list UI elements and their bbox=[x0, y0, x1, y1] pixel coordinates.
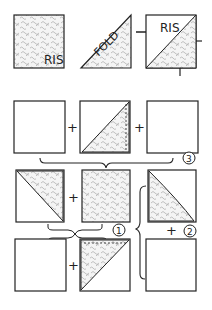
step-1-badge: 1 bbox=[113, 224, 125, 236]
plain-square bbox=[147, 101, 198, 153]
plus-sign: + bbox=[134, 120, 145, 135]
plain-square bbox=[146, 239, 196, 291]
plus-sign: + bbox=[68, 258, 79, 273]
quilt-block-diagram: RIS FOLD RIS + + 3 + 1 bbox=[0, 0, 212, 310]
plus-sign: + bbox=[68, 190, 79, 205]
svg-text:1: 1 bbox=[116, 226, 122, 236]
curved-block bbox=[148, 170, 196, 222]
plain-square bbox=[14, 101, 65, 153]
step-3-badge: 3 bbox=[183, 152, 195, 164]
hst-block bbox=[80, 239, 130, 291]
step-2-badge: 2 bbox=[184, 225, 196, 237]
plain-square bbox=[15, 239, 66, 291]
hst-block bbox=[80, 101, 130, 153]
brace-step-1 bbox=[48, 224, 102, 234]
ris-label: RIS bbox=[44, 53, 64, 67]
brace-step-3 bbox=[40, 158, 173, 168]
brace-step-2 bbox=[136, 186, 146, 279]
printed-square: RIS bbox=[14, 15, 64, 68]
hst-block bbox=[16, 170, 64, 222]
folded-triangle: FOLD bbox=[81, 15, 131, 68]
plus-sign: + bbox=[67, 120, 78, 135]
half-square-triangle: RIS bbox=[146, 15, 202, 76]
plus-sign: + bbox=[166, 223, 177, 238]
ris-label: RIS bbox=[160, 21, 180, 35]
svg-text:3: 3 bbox=[186, 154, 192, 164]
printed-square bbox=[82, 170, 130, 222]
svg-text:2: 2 bbox=[187, 227, 193, 237]
